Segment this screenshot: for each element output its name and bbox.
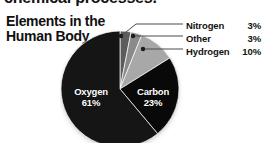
legend-item-nitrogen: Nitrogen 3%: [186, 19, 262, 32]
legend-item-hydrogen: Hydrogen 10%: [186, 45, 262, 58]
legend-item-hydrogen-value: 10%: [242, 45, 261, 58]
legend: Nitrogen 3% Other 3% Hydrogen 10%: [186, 19, 262, 58]
pie-svg: [60, 27, 184, 143]
legend-item-other-label: Other: [186, 32, 211, 45]
legend-item-other: Other 3%: [186, 32, 262, 45]
legend-item-other-value: 3%: [247, 32, 261, 45]
slice-label-carbon-name: Carbon: [128, 86, 178, 97]
pie-chart-figure: chemical processes. Elements in the Huma…: [0, 0, 262, 143]
pie-graphic: [60, 27, 184, 143]
slice-label-carbon-value: 23%: [128, 97, 178, 108]
slice-label-oxygen-value: 61%: [63, 97, 119, 108]
slice-label-oxygen: Oxygen 61%: [63, 86, 119, 108]
legend-item-nitrogen-value: 3%: [247, 19, 261, 32]
slice-label-carbon: Carbon 23%: [128, 86, 178, 108]
cut-off-body-heading: chemical processes.: [4, 0, 157, 7]
legend-item-nitrogen-label: Nitrogen: [186, 19, 224, 32]
slice-label-oxygen-name: Oxygen: [63, 86, 119, 97]
legend-item-hydrogen-label: Hydrogen: [186, 45, 230, 58]
